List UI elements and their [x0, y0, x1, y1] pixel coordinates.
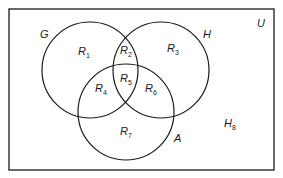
region-r5: R5 — [120, 72, 132, 86]
svg-text:R7: R7 — [120, 125, 132, 139]
region-r8: H8 — [224, 117, 236, 131]
circle-h — [113, 22, 209, 118]
svg-text:R6: R6 — [145, 82, 157, 96]
region-r6: R6 — [145, 82, 157, 96]
region-r2: R2 — [120, 44, 132, 58]
venn-diagram: U G H A R1 R2 R3 R4 R5 R6 R7 H8 — [0, 0, 283, 178]
svg-text:R5: R5 — [120, 72, 132, 86]
region-r7: R7 — [120, 125, 132, 139]
svg-text:R4: R4 — [95, 82, 107, 96]
set-label-g: G — [40, 28, 49, 40]
set-label-a: A — [173, 132, 181, 144]
universe-label: U — [257, 17, 265, 29]
set-label-h: H — [203, 28, 211, 40]
region-r3: R3 — [167, 42, 179, 56]
universe-box — [9, 9, 274, 170]
circle-g — [42, 22, 138, 118]
svg-text:R2: R2 — [120, 44, 132, 58]
svg-text:H8: H8 — [224, 117, 236, 131]
svg-text:R1: R1 — [78, 45, 90, 59]
region-r4: R4 — [95, 82, 107, 96]
svg-text:R3: R3 — [167, 42, 179, 56]
region-r1: R1 — [78, 45, 90, 59]
